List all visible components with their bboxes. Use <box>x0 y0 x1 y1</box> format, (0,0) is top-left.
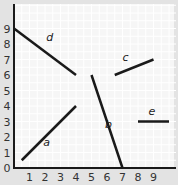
x-tick-label: 2 <box>42 171 49 184</box>
y-tick-label: 6 <box>4 69 11 82</box>
segment-label-a: a <box>43 136 50 149</box>
y-tick-label: 8 <box>4 38 11 51</box>
x-tick-label: 7 <box>119 171 126 184</box>
x-tick-label: 8 <box>135 171 142 184</box>
segment-label-c: c <box>123 51 129 64</box>
x-tick-label: 5 <box>88 171 95 184</box>
x-tick-label: 1 <box>26 171 33 184</box>
y-tick-label: 1 <box>4 147 11 160</box>
segment-label-b: b <box>105 118 112 131</box>
x-tick-label: 6 <box>104 171 111 184</box>
segment-label-e: e <box>149 105 156 118</box>
y-tick-label: 7 <box>4 54 11 67</box>
segment-label-d: d <box>46 31 54 44</box>
coordinate-grid-diagram: 1234567890123456789abcde <box>0 0 178 185</box>
y-tick-label: 0 <box>4 162 11 175</box>
y-tick-label: 3 <box>4 116 11 129</box>
y-tick-label: 4 <box>4 100 11 113</box>
x-tick-label: 4 <box>73 171 80 184</box>
y-tick-label: 5 <box>4 85 11 98</box>
y-tick-label: 9 <box>4 23 11 36</box>
x-tick-label: 3 <box>57 171 64 184</box>
y-tick-label: 2 <box>4 131 11 144</box>
x-tick-label: 9 <box>150 171 157 184</box>
